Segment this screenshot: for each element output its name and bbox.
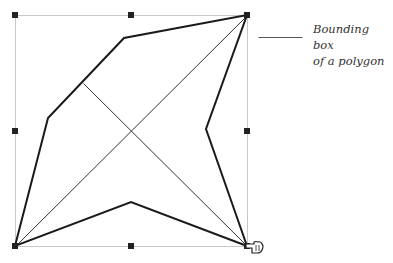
resize-handle[interactable]	[244, 12, 250, 18]
resize-handle[interactable]	[12, 243, 18, 249]
caption-text: Bounding box of a polygon	[313, 21, 393, 69]
resize-handle[interactable]	[12, 12, 18, 18]
caption-line-2: of a polygon	[313, 53, 393, 69]
resize-handle[interactable]	[128, 243, 134, 249]
caption-line-1: Bounding box	[313, 21, 393, 53]
resize-handle[interactable]	[12, 128, 18, 134]
resize-handle[interactable]	[128, 12, 134, 18]
resize-handle[interactable]	[244, 128, 250, 134]
diagonal-line	[84, 84, 248, 247]
